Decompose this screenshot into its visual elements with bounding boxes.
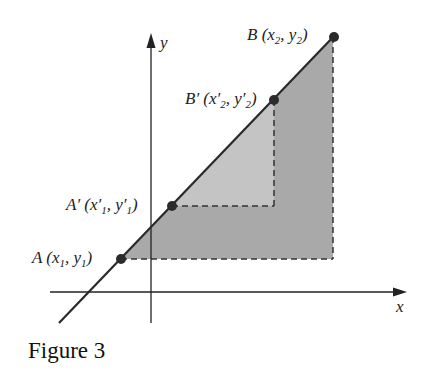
y-axis-label: y <box>158 33 168 52</box>
x-axis-arrow-icon <box>393 288 407 297</box>
point-B-prime <box>269 95 279 105</box>
label-B: B (x2, y2) <box>247 25 308 46</box>
point-A-prime <box>167 201 177 211</box>
similar-triangles-diagram: y x B (x2, y2) B′ (x′2, y′2) A′ (x′1, y′… <box>0 0 425 371</box>
label-A: A (x1, y1) <box>31 248 93 269</box>
label-A-prime: A′ (x′1, y′1) <box>65 195 138 216</box>
label-B-prime: B′ (x′2, y′2) <box>185 89 257 110</box>
figure-caption: Figure 3 <box>28 338 105 363</box>
x-axis-label: x <box>395 297 404 316</box>
point-B <box>329 32 339 42</box>
point-A <box>116 254 126 264</box>
y-axis-arrow-icon <box>147 33 156 48</box>
